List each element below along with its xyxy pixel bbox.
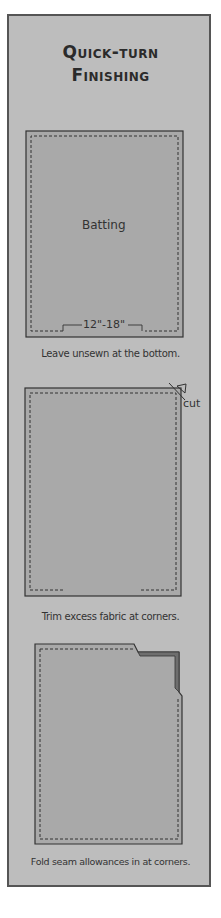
step-1-caption: Leave unsewn at the bottom. bbox=[0, 348, 221, 359]
step-3-diagram bbox=[35, 644, 182, 844]
step-2-caption: Trim excess fabric at corners. bbox=[0, 611, 221, 622]
cut-label: cut bbox=[183, 397, 200, 410]
step-2-diagram bbox=[25, 383, 186, 596]
batting-label: Batting bbox=[82, 218, 126, 232]
step-1-diagram bbox=[26, 131, 183, 337]
measurement-label: 12"-18" bbox=[83, 318, 125, 331]
diagrams bbox=[0, 0, 221, 918]
step-3-caption: Fold seam allowances in at corners. bbox=[0, 856, 221, 867]
